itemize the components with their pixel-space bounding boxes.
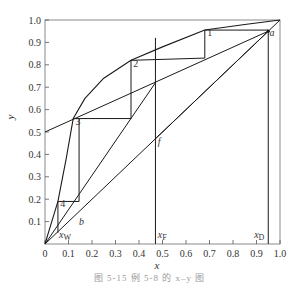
x-tick-label: 0.7 — [203, 248, 216, 259]
x-axis-label: x — [154, 259, 160, 271]
y-axis-label: y — [4, 114, 16, 120]
y-tick-label: 0.2 — [29, 194, 42, 205]
x-tick-label: 0.2 — [86, 248, 99, 259]
x-tick-label: 0.5 — [156, 248, 169, 259]
annotation-3: 3 — [76, 116, 81, 127]
x-tick-label: 0.8 — [227, 248, 240, 259]
x-tick-label: 1.0 — [274, 248, 287, 259]
y-tick-label: 0.4 — [29, 149, 42, 160]
y-tick-label: 0.9 — [29, 37, 42, 48]
x-tick-label: 0.6 — [180, 248, 193, 259]
y-tick-label: 0.5 — [29, 127, 42, 138]
annotation-1: 1 — [207, 27, 212, 38]
annotation-xf: xF — [157, 229, 167, 242]
y-tick-label: 0.3 — [29, 171, 42, 182]
x-tick-label: 0.9 — [250, 248, 263, 259]
x-tick-label: 0 — [43, 248, 48, 259]
series-feed-line-a-f — [155, 31, 268, 139]
annotation-b: b — [79, 216, 84, 227]
annotation-4: 4 — [60, 198, 65, 209]
y-tick-label: 0.8 — [29, 59, 42, 70]
annotation-2: 2 — [133, 58, 138, 69]
y-tick-label: 0.7 — [29, 82, 42, 93]
x-tick-label: 0.1 — [62, 248, 75, 259]
y-tick-label: 0.6 — [29, 104, 42, 115]
mccabe-thiele-chart: 00.10.20.30.40.50.60.70.80.91.00.10.20.3… — [0, 0, 299, 288]
x-tick-label: 0.4 — [133, 248, 146, 259]
y-tick-label: 0.1 — [29, 216, 42, 227]
figure-caption: 图 5-15 例 5-8 的 x–y 图 — [0, 271, 299, 284]
annotation-f: f — [158, 136, 162, 147]
annotation-a: a — [269, 27, 274, 38]
x-tick-label: 0.3 — [109, 248, 122, 259]
y-tick-label: 1.0 — [29, 15, 42, 26]
annotation-xw: xW — [58, 229, 71, 242]
annotation-xd: xD — [253, 229, 264, 242]
